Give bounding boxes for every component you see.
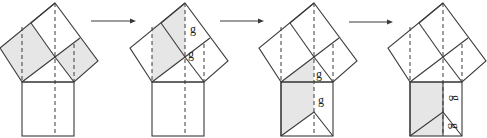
top-edge-segment <box>419 3 443 23</box>
pythagoras-shear-diagram: gggggg Shear-based proof of the Pythagor… <box>0 0 487 138</box>
right-square-edge <box>314 38 339 57</box>
arrow-icon <box>349 20 393 25</box>
g-label: g <box>318 93 324 107</box>
g-label: g <box>190 22 196 36</box>
stage-panel-4: gg <box>388 3 486 136</box>
stage-panel-2: gg <box>130 3 228 136</box>
g-label: g <box>449 95 463 101</box>
top-edge-segment <box>290 3 314 23</box>
arrow-icon <box>91 19 136 24</box>
arrow-icon <box>220 19 264 24</box>
outer-square-outline <box>388 3 486 82</box>
left-square-edge <box>419 23 443 57</box>
diagram-canvas: gggggg <box>0 0 487 138</box>
g-label: g <box>188 47 194 61</box>
stage-panel-1 <box>0 3 98 136</box>
right-square-edge <box>443 38 468 57</box>
g-label: g <box>316 67 322 81</box>
shaded-region <box>0 23 55 82</box>
hypotenuse-square <box>152 82 204 136</box>
g-label: g <box>448 123 462 129</box>
left-square-edge <box>290 23 314 57</box>
stage-panel-3: gg <box>259 3 357 136</box>
top-edge-segment <box>31 3 55 23</box>
shaded-region <box>55 38 98 82</box>
transition-arrows <box>91 19 393 25</box>
triangle-leg-right <box>443 57 462 82</box>
triangle-leg-left <box>410 57 443 82</box>
shaded-region <box>410 82 443 136</box>
hypotenuse-square <box>22 82 74 136</box>
